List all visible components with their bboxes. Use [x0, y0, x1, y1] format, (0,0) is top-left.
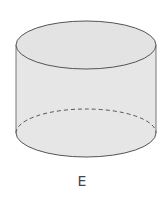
top-face — [16, 21, 156, 69]
cylinder-figure — [0, 0, 164, 170]
figure-label: E — [0, 173, 164, 189]
